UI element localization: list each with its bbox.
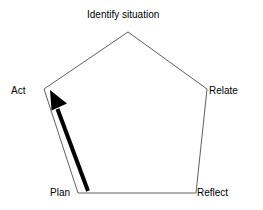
node-label-act: Act bbox=[11, 85, 25, 96]
node-label-identify-situation: Identify situation bbox=[87, 9, 159, 20]
pentagon-outline bbox=[44, 32, 207, 193]
node-label-reflect: Reflect bbox=[197, 187, 228, 198]
node-label-plan: Plan bbox=[50, 187, 70, 198]
pentagon-shape-layer bbox=[0, 0, 263, 210]
pentagon-diagram: Identify situation Relate Reflect Plan A… bbox=[0, 0, 263, 210]
node-label-relate: Relate bbox=[209, 85, 238, 96]
